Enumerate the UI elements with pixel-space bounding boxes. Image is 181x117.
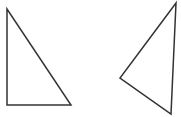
diagram-canvas bbox=[0, 0, 181, 117]
background bbox=[0, 0, 181, 117]
